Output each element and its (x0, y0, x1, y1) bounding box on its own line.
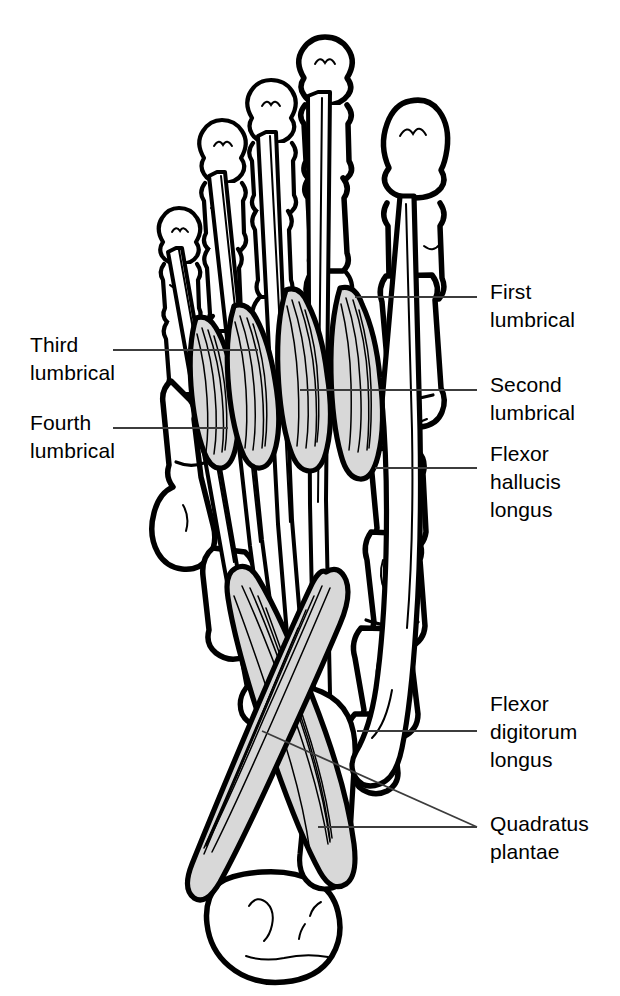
label-second-lumbrical: Second lumbrical (490, 371, 575, 427)
label-flexor-digitorum-longus: Flexor digitorum longus (490, 690, 577, 774)
muscle-lumbrical-1 (331, 287, 383, 479)
label-quadratus-plantae: Quadratus plantae (490, 810, 589, 866)
label-flexor-hallucis-longus: Flexor hallucis longus (490, 440, 561, 524)
label-first-lumbrical: First lumbrical (490, 278, 575, 334)
anatomy-figure: .bone { fill:#ffffff; stroke:#000000; st… (0, 0, 620, 996)
label-fourth-lumbrical: Fourth lumbrical (30, 409, 115, 465)
label-third-lumbrical: Third lumbrical (30, 331, 115, 387)
